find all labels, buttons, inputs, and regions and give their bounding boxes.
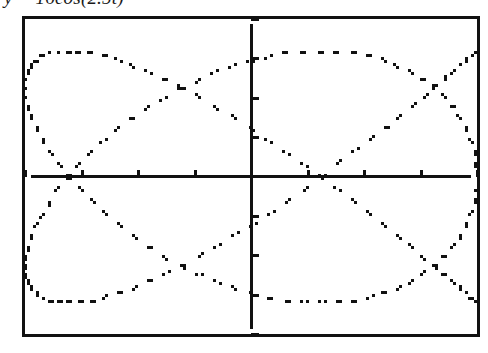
x-axis-tick [137,170,140,177]
x-axis-tick [307,170,310,177]
x-axis-tick [25,170,27,177]
equation-text: y = 16cos(2.5t) [4,0,124,8]
calculator-screen-frame [22,16,480,337]
y-axis-tick [251,19,259,21]
y-axis-tick [251,215,259,218]
y-axis-tick [251,57,259,60]
calculator-graph-figure: y = 16cos(2.5t) [0,0,488,353]
plot-area [25,19,477,334]
y-axis-tick [251,97,259,100]
y-axis-tick [251,136,259,139]
axes-group [25,19,477,334]
y-axis-tick [251,254,259,257]
x-axis-tick [363,170,366,177]
x-axis-tick [420,170,423,177]
x-axis-tick [81,170,84,177]
x-axis-tick [194,170,197,177]
equation-caption: y = 16cos(2.5t) [4,0,124,9]
lissajous-plot [25,19,477,334]
y-axis-tick [251,333,259,334]
y-axis-line [250,24,253,329]
